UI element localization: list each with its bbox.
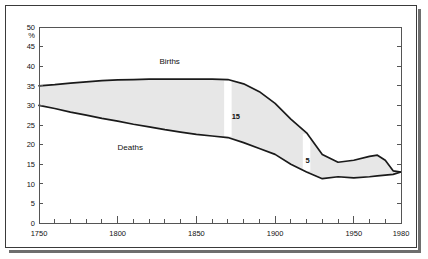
x-tick-label: 1900	[267, 229, 284, 238]
y-tick-label: 5	[31, 199, 35, 208]
x-tick-label: 1950	[345, 229, 362, 238]
natural-increase-band	[39, 79, 401, 179]
gap-label-15: 15	[232, 112, 240, 121]
x-tick-label: 1850	[188, 229, 205, 238]
chart-frame: 05101520253035404550%1750180018501900195…	[5, 5, 417, 248]
x-tick-label: 1980	[393, 229, 410, 238]
y-axis-unit: %	[28, 31, 35, 40]
gap-label-5: 5	[305, 156, 309, 165]
series-label-deaths: Deaths	[118, 143, 143, 152]
frame-shadow-right	[418, 9, 421, 253]
series-label-births: Births	[159, 57, 179, 66]
y-tick-label: 35	[27, 82, 35, 91]
x-tick-label: 1750	[31, 229, 48, 238]
y-tick-label: 15	[27, 160, 35, 169]
y-tick-label: 30	[27, 101, 35, 110]
y-tick-label: 0	[31, 219, 35, 228]
y-tick-label: 45	[27, 42, 35, 51]
y-tick-label: 10	[27, 180, 35, 189]
demographic-transition-chart: 05101520253035404550%1750180018501900195…	[6, 6, 416, 247]
y-tick-label: 40	[27, 62, 35, 71]
y-tick-label: 25	[27, 121, 35, 130]
frame-shadow-bottom	[9, 250, 421, 253]
y-tick-label: 20	[27, 140, 35, 149]
x-tick-label: 1800	[109, 229, 126, 238]
